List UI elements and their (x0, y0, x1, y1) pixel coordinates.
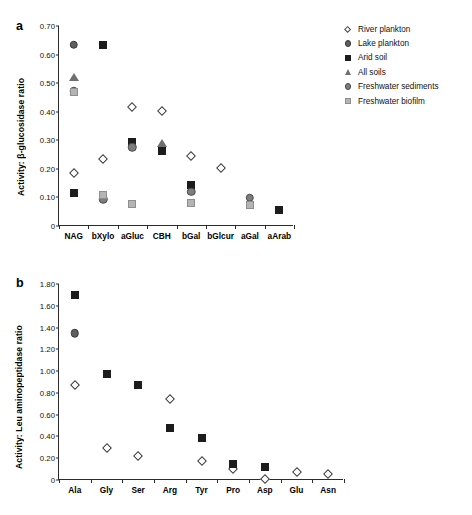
y-axis-tick-mark (56, 26, 60, 27)
data-point (187, 187, 196, 196)
data-point (70, 88, 78, 96)
x-axis-tick-label: bGal (182, 231, 200, 241)
x-axis-tick-mark (344, 479, 345, 483)
data-point (70, 380, 80, 390)
x-axis-tick-mark (177, 225, 178, 229)
data-point (133, 451, 143, 461)
x-axis-tick-mark (217, 479, 218, 483)
filled-circle-dark-icon (342, 40, 354, 47)
data-point (275, 206, 283, 214)
x-axis-tick-mark (186, 479, 187, 483)
x-axis-tick-mark (154, 479, 155, 483)
legend-item-all-soils: All soils (342, 65, 439, 79)
x-axis-tick-label: Gly (100, 485, 113, 495)
data-point (158, 147, 166, 155)
x-axis-tick-mark (265, 225, 266, 229)
data-point (102, 443, 112, 453)
x-axis-tick-mark (59, 479, 60, 483)
y-axis-tick-mark (56, 83, 60, 84)
legend-label: Lake plankton (358, 39, 409, 48)
x-axis-tick-label: Glu (290, 485, 304, 495)
y-axis-tick-mark (56, 327, 60, 328)
y-axis-tick-mark (56, 284, 60, 285)
x-axis-tick-label: Arg (163, 485, 177, 495)
y-axis-tick-mark (56, 197, 60, 198)
data-point (128, 200, 136, 208)
y-axis-tick-mark (56, 305, 60, 306)
data-point (71, 291, 79, 299)
legend-label: Arid soil (358, 53, 387, 62)
x-axis-tick-label: bXylo (92, 231, 115, 241)
x-axis-tick-mark (91, 479, 92, 483)
x-axis-tick-label: Tyr (195, 485, 207, 495)
x-axis-tick-mark (88, 225, 89, 229)
data-point (246, 201, 254, 209)
data-point (127, 102, 137, 112)
panel-a: a Activity: β-glucosidase ratio 00.100.2… (0, 0, 472, 258)
data-point (69, 40, 78, 49)
data-point (99, 191, 107, 199)
data-point (229, 460, 237, 468)
data-point (69, 73, 79, 81)
data-point (292, 467, 302, 477)
data-point (197, 456, 207, 466)
x-axis-tick-mark (249, 479, 250, 483)
x-axis-tick-mark (235, 225, 236, 229)
legend: River plankton Lake plankton Arid soil A… (342, 22, 439, 108)
x-axis-tick-mark (122, 479, 123, 483)
y-axis-tick-mark (56, 392, 60, 393)
x-axis-tick-label: bGlcur (207, 231, 234, 241)
x-axis-tick-mark (147, 225, 148, 229)
data-point (99, 41, 107, 49)
open-diamond-icon (342, 27, 354, 32)
data-point (187, 199, 195, 207)
x-axis-tick-label: Asp (257, 485, 273, 495)
filled-triangle-icon (342, 69, 354, 75)
data-point (198, 434, 206, 442)
x-axis-tick-label: Ala (68, 485, 81, 495)
data-point (70, 189, 78, 197)
x-axis-tick-mark (294, 225, 295, 229)
x-axis-tick-label: NAG (64, 231, 82, 241)
legend-item-arid-soil: Arid soil (342, 51, 439, 65)
data-point (261, 463, 269, 471)
panel-b-plot-area: 00.200.400.600.801.001.201.401.601.80Ala… (58, 284, 343, 480)
y-axis-tick-mark (56, 458, 60, 459)
data-point (98, 154, 108, 164)
legend-item-freshwater-biofilm: Freshwater biofilm (342, 94, 439, 108)
filled-square-dark-icon (342, 55, 354, 61)
y-axis-tick-mark (56, 371, 60, 372)
data-point (157, 139, 167, 147)
data-point (186, 151, 196, 161)
panel-a-plot-area: 00.100.200.300.400.500.600.70NAGbXyloaGl… (58, 26, 293, 226)
panel-b-y-axis-title: Activity: Leu aminopeptidase ratio (14, 310, 24, 485)
y-axis-tick-mark (56, 168, 60, 169)
data-point (71, 329, 80, 338)
data-point (260, 475, 270, 485)
x-axis-tick-label: aGluc (121, 231, 144, 241)
filled-square-gray-icon (342, 98, 354, 104)
x-axis-tick-label: CBH (153, 231, 171, 241)
x-axis-tick-mark (281, 479, 282, 483)
data-point (166, 424, 174, 432)
data-point (103, 370, 111, 378)
data-point (157, 106, 167, 116)
legend-item-freshwater-sediments: Freshwater sediments (342, 80, 439, 94)
legend-label: Freshwater biofilm (358, 97, 425, 106)
panel-b-letter: b (16, 276, 24, 290)
x-axis-tick-label: Asn (320, 485, 336, 495)
panel-a-y-axis-title: Activity: β-glucosidase ratio (16, 62, 26, 212)
panel-b: b Activity: Leu aminopeptidase ratio 00.… (0, 258, 472, 515)
data-point (216, 163, 226, 173)
data-point (69, 168, 79, 178)
y-axis-tick-mark (56, 436, 60, 437)
legend-label: All soils (358, 68, 386, 77)
x-axis-tick-mark (206, 225, 207, 229)
x-axis-tick-label: aGal (241, 231, 259, 241)
y-axis-tick-mark (56, 140, 60, 141)
figure-container: a Activity: β-glucosidase ratio 00.100.2… (0, 0, 472, 515)
legend-label: River plankton (358, 25, 410, 34)
y-axis-tick-mark (56, 111, 60, 112)
x-axis-tick-mark (118, 225, 119, 229)
x-axis-tick-label: aArab (268, 231, 292, 241)
